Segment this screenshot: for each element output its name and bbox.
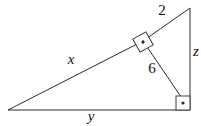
figure-canvas: x 2 z 6 y	[0, 0, 201, 126]
label-x: x	[67, 51, 75, 67]
right-angle-marker-altitude-foot	[133, 32, 153, 52]
hypotenuse-long-segment	[8, 41, 143, 110]
label-z: z	[192, 43, 199, 59]
right-angle-marker-corner	[176, 96, 190, 110]
label-6: 6	[148, 60, 156, 76]
hypotenuse-short-segment	[143, 8, 190, 41]
geometry-figure: x 2 z 6 y	[0, 0, 201, 126]
label-y: y	[86, 108, 95, 124]
label-2: 2	[158, 2, 166, 18]
